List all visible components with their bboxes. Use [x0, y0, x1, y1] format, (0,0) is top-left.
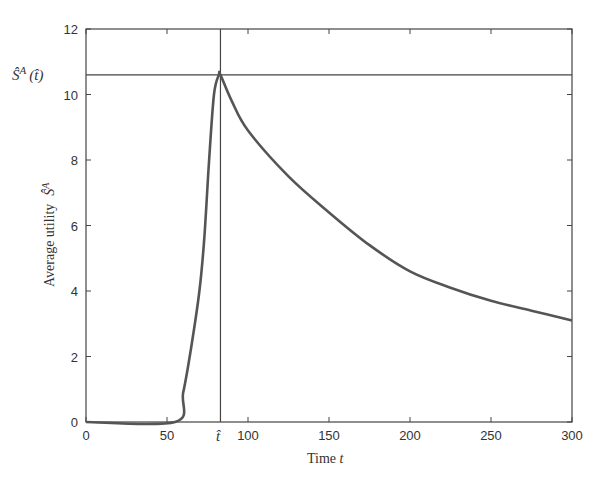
- utility-curve: [86, 72, 572, 424]
- x-tick-label: 0: [82, 428, 89, 443]
- chart: 050100150200250300024681012 ŜA(t̂) t̂ Ti…: [0, 0, 608, 485]
- tick-labels: 050100150200250300024681012: [64, 22, 583, 443]
- y-axis-label: Average utilityŜA: [40, 182, 57, 287]
- x-tick-label: 150: [318, 428, 340, 443]
- y-tick-label: 8: [71, 153, 78, 168]
- x-axis-label: Time t: [307, 451, 345, 466]
- y-tick-label: 4: [71, 284, 78, 299]
- y-tick-label: 12: [64, 22, 78, 37]
- x-tick-label: 100: [237, 428, 259, 443]
- x-tick-label: 50: [160, 428, 174, 443]
- axis-ticks: [86, 29, 572, 422]
- hline-label: ŜA(t̂): [12, 64, 43, 84]
- x-tick-label: 300: [561, 428, 583, 443]
- vline-label: t̂: [216, 428, 221, 444]
- x-tick-label: 200: [399, 428, 421, 443]
- y-tick-label: 6: [71, 219, 78, 234]
- x-tick-label: 250: [480, 428, 502, 443]
- plot-frame: [86, 29, 572, 422]
- y-tick-label: 2: [71, 350, 78, 365]
- y-tick-label: 10: [64, 88, 78, 103]
- y-tick-label: 0: [71, 415, 78, 430]
